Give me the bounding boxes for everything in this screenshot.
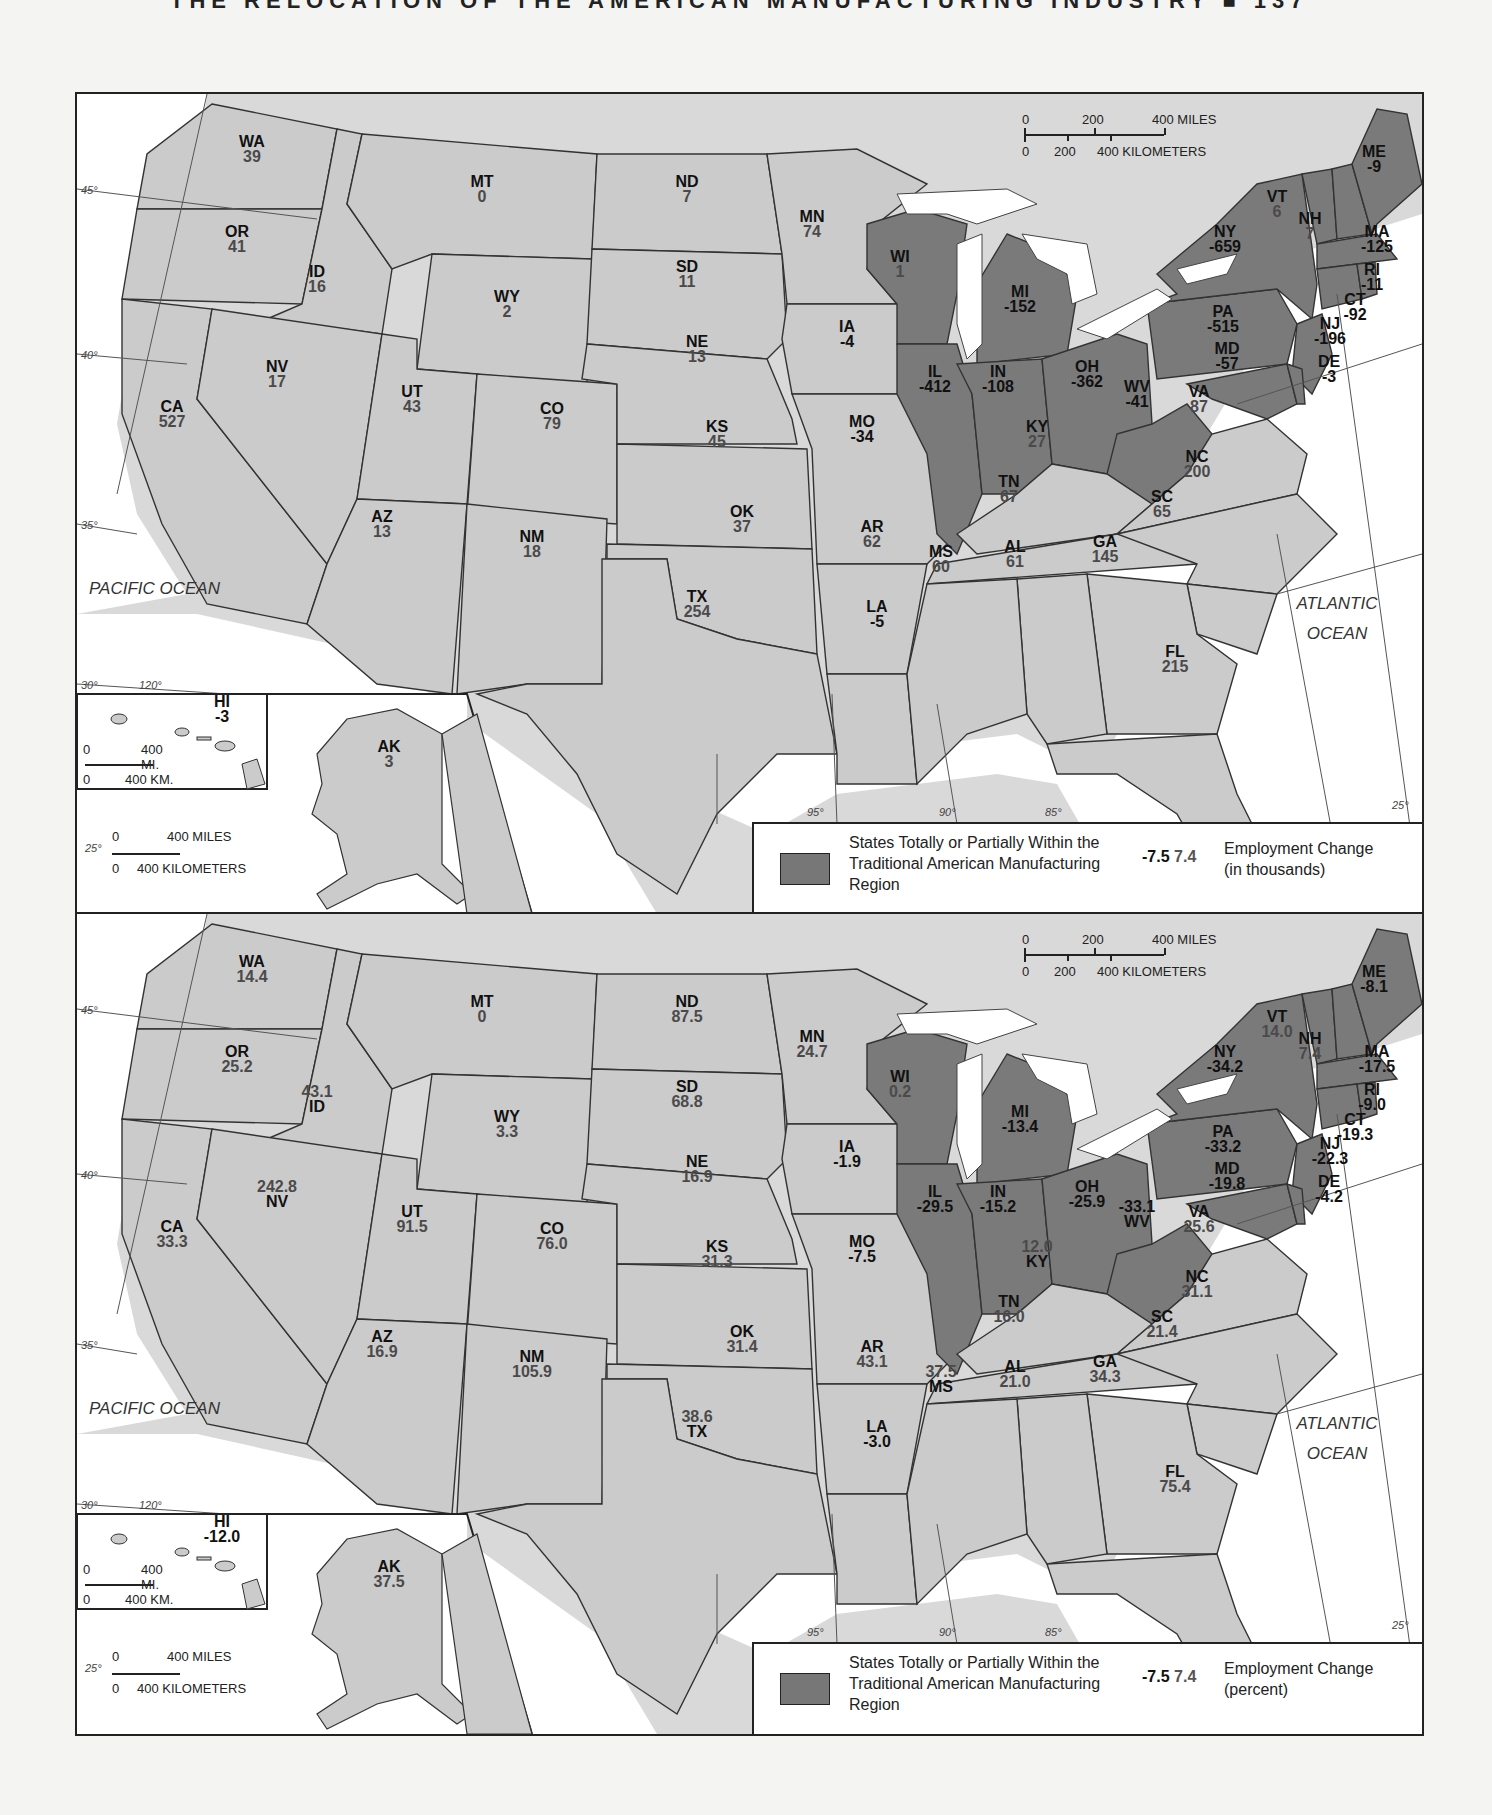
lat-40-label: 40° [81, 349, 98, 361]
state-label-nm: NM18 [520, 529, 545, 559]
state-label-wv: WV-41 [1124, 379, 1150, 409]
state-abbr: DE [1315, 1174, 1343, 1189]
state-abbr: RI [1361, 262, 1383, 277]
lon-90-label: 90° [939, 806, 956, 818]
state-label-ok: OK31.4 [726, 1324, 757, 1354]
state-label-mt: MT0 [470, 994, 493, 1024]
state-abbr: RI [1358, 1082, 1386, 1097]
state-label-ny: NY-659 [1209, 224, 1241, 254]
state-abbr: AZ [366, 1329, 397, 1344]
state-label-nh: NH7 [1298, 211, 1321, 241]
state-abbr: ND [671, 994, 702, 1009]
state-abbr: IA [839, 319, 855, 334]
state-abbr: IA [833, 1139, 861, 1154]
state-value: 37 [730, 519, 754, 534]
state-abbr: ME [1362, 144, 1386, 159]
lat-40-label: 40° [81, 1169, 98, 1181]
state-label-az: AZ13 [371, 509, 392, 539]
state-value: 60 [929, 559, 953, 574]
legend-swatch-label: States Totally or Partially Within the T… [849, 1652, 1149, 1715]
state-abbr: WV [1124, 379, 1150, 394]
state-value: 43 [401, 399, 422, 414]
map-panel-percent: PACIFIC OCEAN ATLANTIC OCEAN 0 200 400 M… [75, 912, 1424, 1736]
state-value: -12.0 [204, 1529, 240, 1544]
state-label-nj: NJ-196 [1314, 316, 1346, 346]
state-label-ct: CT-92 [1343, 292, 1366, 322]
state-value: 11 [676, 274, 698, 289]
state-abbr: MD [1209, 1161, 1245, 1176]
state-abbr: FL [1162, 644, 1189, 659]
state-abbr: NV [257, 1194, 297, 1209]
state-label-az: AZ16.9 [366, 1329, 397, 1359]
lon-90-label: 90° [939, 1626, 956, 1638]
state-label-il: IL-412 [919, 364, 951, 394]
state-ks [617, 1264, 812, 1369]
state-label-vt: VT14.0 [1261, 1009, 1292, 1039]
state-la [827, 674, 917, 784]
state-label-nd: ND87.5 [671, 994, 702, 1024]
state-value: -9 [1362, 159, 1386, 174]
state-label-ks: KS31.3 [701, 1239, 732, 1269]
state-value: 91.5 [396, 1219, 427, 1234]
state-abbr: AK [377, 739, 400, 754]
state-label-in: IN-15.2 [980, 1184, 1016, 1214]
state-value: -29.5 [917, 1199, 953, 1214]
state-abbr: WV [1119, 1214, 1155, 1229]
state-value: -659 [1209, 239, 1241, 254]
state-label-or: OR41 [225, 224, 249, 254]
state-label-tx: TX254 [684, 589, 711, 619]
state-value: 39 [239, 149, 265, 164]
state-value: 0.2 [889, 1084, 911, 1099]
state-abbr: IN [980, 1184, 1016, 1199]
state-label-ar: AR62 [860, 519, 883, 549]
state-value: 13 [371, 524, 392, 539]
state-value: -515 [1207, 319, 1239, 334]
state-value: 1 [890, 264, 910, 279]
state-label-id: ID16 [308, 264, 326, 294]
state-abbr: HI [204, 1514, 240, 1529]
state-value: 74 [800, 224, 825, 239]
state-value: 7 [1298, 226, 1321, 241]
state-value: 67 [998, 489, 1019, 504]
state-label-ok: OK37 [730, 504, 754, 534]
state-label-sd: SD68.8 [671, 1079, 702, 1109]
state-label-wi: WI1 [890, 249, 910, 279]
state-value: -92 [1343, 307, 1366, 322]
state-value: 31.4 [726, 1339, 757, 1354]
state-label-de: DE-3 [1318, 354, 1340, 384]
atlantic-ocean-label: ATLANTIC OCEAN [1282, 589, 1392, 649]
state-value: 37.5 [925, 1364, 956, 1379]
state-label-mo: MO-34 [849, 414, 875, 444]
state-abbr: NH [1298, 1031, 1321, 1046]
state-abbr: DE [1318, 354, 1340, 369]
state-label-me: ME-9 [1362, 144, 1386, 174]
state-abbr: VA [1183, 1204, 1214, 1219]
scale-bar: 0 200 400 MILES 0 200 400 KILOMETERS [1022, 112, 1262, 158]
state-label-la: LA-3.0 [863, 1419, 891, 1449]
state-label-de: DE-4.2 [1315, 1174, 1343, 1204]
state-abbr: PA [1205, 1124, 1241, 1139]
state-abbr: KY [1026, 419, 1048, 434]
state-value: 21.4 [1146, 1324, 1177, 1339]
state-label-nh: NH7.4 [1298, 1031, 1321, 1061]
state-label-ca: CA33.3 [156, 1219, 187, 1249]
state-label-mt: MT0 [470, 174, 493, 204]
state-value: -19.8 [1209, 1176, 1245, 1191]
lon-95-label: 95° [807, 806, 824, 818]
state-la [827, 1494, 917, 1604]
page-header: THE RELOCATION OF THE AMERICAN MANUFACTU… [170, 0, 1309, 14]
state-abbr: OH [1071, 359, 1103, 374]
state-label-ga: GA145 [1092, 534, 1119, 564]
state-value: 17 [266, 374, 288, 389]
state-abbr: SC [1146, 1309, 1177, 1324]
state-value: -362 [1071, 374, 1103, 389]
state-label-nv: 242.8NV [257, 1179, 297, 1209]
state-value: 200 [1184, 464, 1211, 479]
state-value: 38.6 [681, 1409, 712, 1424]
atlantic-ocean-label: ATLANTIC OCEAN [1282, 1409, 1392, 1469]
state-abbr: OK [726, 1324, 757, 1339]
state-value: 37.5 [373, 1574, 404, 1589]
state-abbr: MD [1215, 341, 1240, 356]
state-label-sc: SC21.4 [1146, 1309, 1177, 1339]
state-value: -196 [1314, 331, 1346, 346]
